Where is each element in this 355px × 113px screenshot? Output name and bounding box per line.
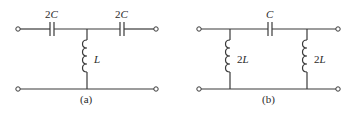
component-label: C [266, 8, 274, 20]
inductor-icon [83, 29, 88, 89]
circuit-a: 2C 2C L (a) [16, 8, 158, 106]
terminal-node [336, 87, 340, 91]
inductor-icon [303, 29, 308, 89]
component-label: 2C [45, 8, 59, 20]
capacitor-icon [268, 22, 272, 36]
circuit-figure: 2C 2C L (a) C [0, 0, 355, 113]
component-label: 2C [115, 8, 129, 20]
capacitor-icon [120, 22, 124, 36]
terminal-node [154, 87, 158, 91]
component-label: 2L [314, 53, 326, 65]
inductor-icon [226, 29, 231, 89]
terminal-node [197, 87, 201, 91]
terminal-node [336, 27, 340, 31]
circuit-b: C 2L 2L (b) [197, 8, 340, 106]
component-label: L [93, 53, 100, 65]
terminal-node [197, 27, 201, 31]
figure-caption: (b) [262, 93, 275, 106]
component-label: 2L [237, 53, 249, 65]
terminal-node [16, 87, 20, 91]
terminal-node [16, 27, 20, 31]
terminal-node [154, 27, 158, 31]
capacitor-icon [50, 22, 54, 36]
figure-caption: (a) [80, 93, 93, 106]
